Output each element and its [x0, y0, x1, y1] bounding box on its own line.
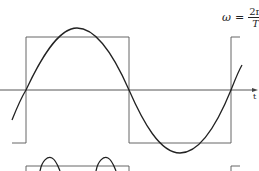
lower-square-right — [231, 166, 240, 171]
time-axis-label: t — [253, 92, 256, 101]
denominator: T — [252, 18, 259, 29]
omega-symbol: ω — [222, 11, 231, 24]
rectified-sine — [40, 158, 116, 171]
angular-frequency-formula: ω = 2π T — [222, 6, 259, 29]
fraction: 2π T — [248, 6, 259, 29]
waveform-diagram — [0, 0, 259, 171]
sine-wave — [12, 28, 242, 153]
equals-sign: = — [235, 11, 244, 24]
numerator: 2π — [248, 6, 259, 18]
